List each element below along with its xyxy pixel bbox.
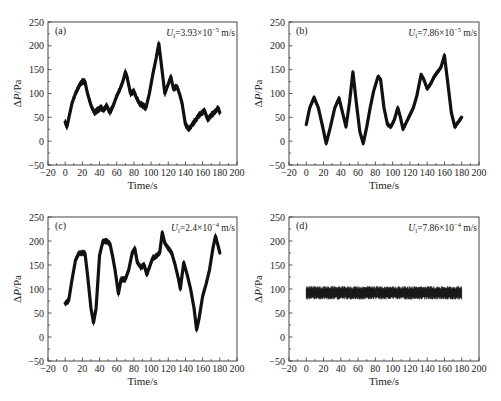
y-tick-label: 150 bbox=[29, 64, 44, 75]
x-tick-label: 160 bbox=[437, 167, 452, 178]
x-tick-label: 0 bbox=[63, 167, 68, 178]
panel-label: (a) bbox=[55, 25, 66, 37]
y-tick-label: 100 bbox=[29, 284, 44, 295]
y-tick-label: 250 bbox=[29, 212, 44, 223]
x-tick-label: 140 bbox=[178, 167, 193, 178]
y-tick-label: 200 bbox=[270, 40, 285, 51]
x-tick-label: 120 bbox=[402, 363, 417, 374]
y-tick-label: 100 bbox=[270, 284, 285, 295]
panel-a: −20020406080100120140160180200−500501001… bbox=[11, 17, 245, 192]
y-tick-label: 100 bbox=[270, 88, 285, 99]
panel-label: (c) bbox=[55, 220, 66, 232]
x-tick-label: 80 bbox=[129, 167, 139, 178]
velocity-annotation: Ul=7.86×10−4 m/s bbox=[408, 221, 477, 235]
x-tick-label: 20 bbox=[319, 167, 329, 178]
y-tick-label: 0 bbox=[39, 136, 44, 147]
y-axis-title: ΔP/Pa bbox=[11, 275, 23, 303]
x-tick-label: 0 bbox=[304, 167, 309, 178]
data-series-band bbox=[306, 286, 461, 299]
y-tick-label: 250 bbox=[270, 17, 285, 28]
x-tick-label: 100 bbox=[385, 167, 400, 178]
y-tick-label: −50 bbox=[269, 356, 285, 367]
y-tick-label: 50 bbox=[275, 112, 285, 123]
plot-frame bbox=[48, 217, 237, 361]
x-tick-label: 120 bbox=[402, 167, 417, 178]
x-tick-label: 40 bbox=[95, 167, 105, 178]
x-tick-label: 40 bbox=[336, 167, 346, 178]
x-tick-label: 140 bbox=[420, 363, 435, 374]
x-tick-label: 160 bbox=[195, 167, 210, 178]
x-tick-label: 0 bbox=[63, 363, 68, 374]
velocity-annotation: Ul=7.86×10−5 m/s bbox=[408, 26, 477, 40]
y-tick-label: 250 bbox=[29, 17, 44, 28]
y-tick-label: 200 bbox=[270, 236, 285, 247]
y-tick-label: −50 bbox=[28, 356, 44, 367]
y-tick-label: 50 bbox=[275, 308, 285, 319]
x-tick-label: 180 bbox=[212, 363, 227, 374]
velocity-annotation: Ul=2.4×10−4 m/s bbox=[171, 221, 235, 235]
panel-label: (b) bbox=[296, 25, 308, 37]
x-tick-label: 120 bbox=[161, 363, 176, 374]
y-axis-title: ΔP/Pa bbox=[252, 79, 264, 107]
x-tick-label: 20 bbox=[77, 363, 87, 374]
y-tick-label: 0 bbox=[280, 332, 285, 343]
data-series-line bbox=[306, 55, 461, 143]
x-tick-label: 60 bbox=[112, 363, 122, 374]
y-tick-label: 100 bbox=[29, 88, 44, 99]
x-tick-label: 200 bbox=[230, 363, 245, 374]
panel-d: −20020406080100120140160180200−500501001… bbox=[252, 212, 487, 388]
x-tick-label: 20 bbox=[77, 167, 87, 178]
y-tick-label: 150 bbox=[29, 260, 44, 271]
x-tick-label: 200 bbox=[472, 363, 487, 374]
x-tick-label: 20 bbox=[319, 363, 329, 374]
y-tick-label: 200 bbox=[29, 40, 44, 51]
y-axis-title: ΔP/Pa bbox=[11, 79, 23, 107]
panel-b: −20020406080100120140160180200−500501001… bbox=[252, 17, 487, 192]
x-tick-label: 80 bbox=[370, 363, 380, 374]
x-tick-label: 160 bbox=[195, 363, 210, 374]
x-tick-label: 60 bbox=[353, 167, 363, 178]
x-tick-label: 200 bbox=[472, 167, 487, 178]
x-tick-label: 160 bbox=[437, 363, 452, 374]
y-tick-label: −50 bbox=[28, 160, 44, 171]
x-tick-label: 80 bbox=[370, 167, 380, 178]
x-tick-label: 180 bbox=[454, 363, 469, 374]
x-tick-label: 0 bbox=[304, 363, 309, 374]
x-axis-title: Time/s bbox=[127, 375, 157, 387]
y-tick-label: 0 bbox=[39, 332, 44, 343]
panel-label: (d) bbox=[296, 220, 308, 232]
data-series-line bbox=[65, 232, 220, 329]
y-tick-label: 50 bbox=[34, 308, 44, 319]
y-tick-label: −50 bbox=[269, 160, 285, 171]
x-axis-title: Time/s bbox=[127, 179, 157, 191]
x-tick-label: 100 bbox=[385, 363, 400, 374]
velocity-annotation: Ul=3.93×10−5 m/s bbox=[166, 26, 235, 40]
x-tick-label: 180 bbox=[212, 167, 227, 178]
x-tick-label: 100 bbox=[144, 363, 159, 374]
y-tick-label: 0 bbox=[280, 136, 285, 147]
panel-c: −20020406080100120140160180200−500501001… bbox=[11, 212, 245, 388]
x-tick-label: 40 bbox=[95, 363, 105, 374]
x-tick-label: 60 bbox=[353, 363, 363, 374]
x-tick-label: 40 bbox=[336, 363, 346, 374]
x-axis-title: Time/s bbox=[369, 179, 399, 191]
x-tick-label: 80 bbox=[129, 363, 139, 374]
y-tick-label: 50 bbox=[34, 112, 44, 123]
figure: −20020406080100120140160180200−500501001… bbox=[0, 0, 501, 401]
x-tick-label: 140 bbox=[178, 363, 193, 374]
y-axis-title: ΔP/Pa bbox=[252, 275, 264, 303]
y-tick-label: 200 bbox=[29, 236, 44, 247]
x-tick-label: 180 bbox=[454, 167, 469, 178]
x-tick-label: 100 bbox=[144, 167, 159, 178]
x-tick-label: 200 bbox=[230, 167, 245, 178]
data-series-line bbox=[65, 43, 220, 129]
x-tick-label: 60 bbox=[112, 167, 122, 178]
x-tick-label: 140 bbox=[420, 167, 435, 178]
y-tick-label: 150 bbox=[270, 260, 285, 271]
x-tick-label: 120 bbox=[161, 167, 176, 178]
y-tick-label: 250 bbox=[270, 212, 285, 223]
x-axis-title: Time/s bbox=[369, 375, 399, 387]
y-tick-label: 150 bbox=[270, 64, 285, 75]
